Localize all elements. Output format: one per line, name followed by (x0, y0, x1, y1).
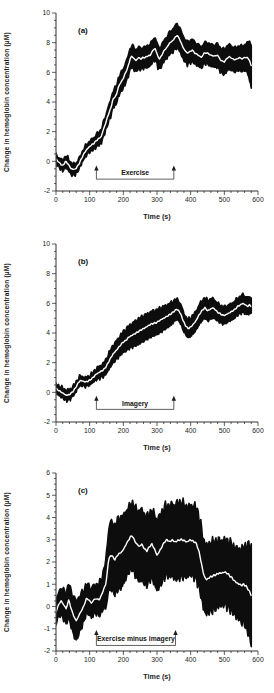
y-tick-label: 3 (46, 536, 50, 543)
y-tick-label: 4 (46, 514, 50, 521)
y-tick-label: 5 (46, 492, 50, 499)
chart-panel-a: 0100200300400500600-20246810Change in he… (0, 0, 274, 231)
y-tick-label: 4 (46, 98, 50, 105)
x-tick-label: 0 (54, 427, 58, 434)
x-tick-label: 100 (84, 427, 96, 434)
panel-letter: (b) (78, 257, 89, 266)
x-tick-label: 0 (54, 656, 58, 663)
x-tick-label: 300 (151, 656, 163, 663)
y-tick-label: -2 (44, 418, 50, 425)
y-tick-label: 2 (46, 128, 50, 135)
chart-panel-c: 0100200300400500600-2-10123456Change in … (0, 462, 274, 693)
annotation-arrow-icon (172, 396, 176, 401)
y-tick-label: 0 (46, 603, 50, 610)
panel-a: 0100200300400500600-20246810Change in he… (0, 0, 274, 231)
y-tick-label: 6 (46, 300, 50, 307)
x-axis-title: Time (s) (143, 212, 171, 221)
annotation-label: Imagery (122, 400, 148, 408)
x-tick-label: 400 (185, 656, 197, 663)
y-tick-label: 4 (46, 329, 50, 336)
y-tick-label: 10 (42, 240, 50, 247)
y-tick-label: 8 (46, 270, 50, 277)
chart-panel-b: 0100200300400500600-20246810Change in he… (0, 231, 274, 462)
x-tick-label: 100 (84, 656, 96, 663)
y-axis-title: Change in hemoglobin concentration (µM) (3, 263, 11, 403)
y-tick-label: 6 (46, 469, 50, 476)
annotation-arrow-icon (94, 396, 98, 401)
y-tick-label: 1 (46, 581, 50, 588)
x-tick-label: 400 (185, 427, 197, 434)
y-tick-label: 8 (46, 39, 50, 46)
x-tick-label: 200 (118, 427, 130, 434)
panel-letter: (a) (78, 26, 88, 35)
panel-letter: (c) (78, 486, 88, 495)
plot-area (56, 498, 251, 647)
x-tick-label: 400 (185, 196, 197, 203)
annotation-arrow-icon (172, 166, 176, 171)
y-tick-label: -2 (44, 647, 50, 654)
y-tick-label: 2 (46, 359, 50, 366)
x-tick-label: 300 (151, 427, 163, 434)
error-band (56, 23, 251, 176)
x-axis-title: Time (s) (143, 672, 171, 681)
x-tick-label: 100 (84, 196, 96, 203)
y-tick-label: -2 (44, 187, 50, 194)
x-tick-label: 0 (54, 196, 58, 203)
x-tick-label: 500 (219, 427, 231, 434)
plot-area (56, 23, 251, 176)
plot-area (56, 293, 251, 402)
annotation-label: Exercise (121, 169, 149, 176)
y-tick-label: 10 (42, 9, 50, 16)
x-tick-label: 600 (252, 196, 264, 203)
y-tick-label: 0 (46, 158, 50, 165)
x-tick-label: 600 (252, 427, 264, 434)
x-tick-label: 500 (219, 196, 231, 203)
x-tick-label: 200 (118, 196, 130, 203)
y-tick-label: 6 (46, 69, 50, 76)
x-tick-label: 500 (219, 656, 231, 663)
error-band (56, 293, 251, 402)
y-tick-label: 0 (46, 389, 50, 396)
y-axis-title: Change in hemoglobin concentration (µM) (3, 492, 11, 632)
figure-hemoglobin-concentration: 0100200300400500600-20246810Change in he… (0, 0, 274, 693)
panel-c: 0100200300400500600-2-10123456Change in … (0, 462, 274, 693)
y-tick-label: 2 (46, 558, 50, 565)
x-tick-label: 300 (151, 196, 163, 203)
y-axis-title: Change in hemoglobin concentration (µM) (3, 32, 11, 172)
x-tick-label: 600 (252, 656, 264, 663)
x-tick-label: 200 (118, 656, 130, 663)
x-axis-title: Time (s) (143, 443, 171, 452)
annotation-label: Exercise minus imagery (97, 635, 175, 643)
y-tick-label: -1 (44, 625, 50, 632)
annotation-arrow-icon (94, 166, 98, 171)
panel-b: 0100200300400500600-20246810Change in he… (0, 231, 274, 462)
